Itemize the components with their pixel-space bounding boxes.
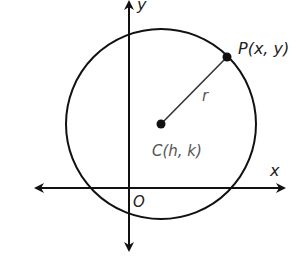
center-point (157, 120, 166, 129)
x-axis-label: x (269, 161, 280, 180)
radius-segment (161, 57, 227, 124)
origin-label: O (133, 193, 145, 211)
circle-diagram: y x O P(x, y) r C(h, k) (0, 0, 303, 256)
radius-label: r (202, 87, 209, 105)
center-label: C(h, k) (152, 142, 202, 160)
y-axis-label: y (136, 0, 147, 14)
point-p-label: P(x, y) (238, 39, 289, 58)
point-p (223, 53, 232, 62)
